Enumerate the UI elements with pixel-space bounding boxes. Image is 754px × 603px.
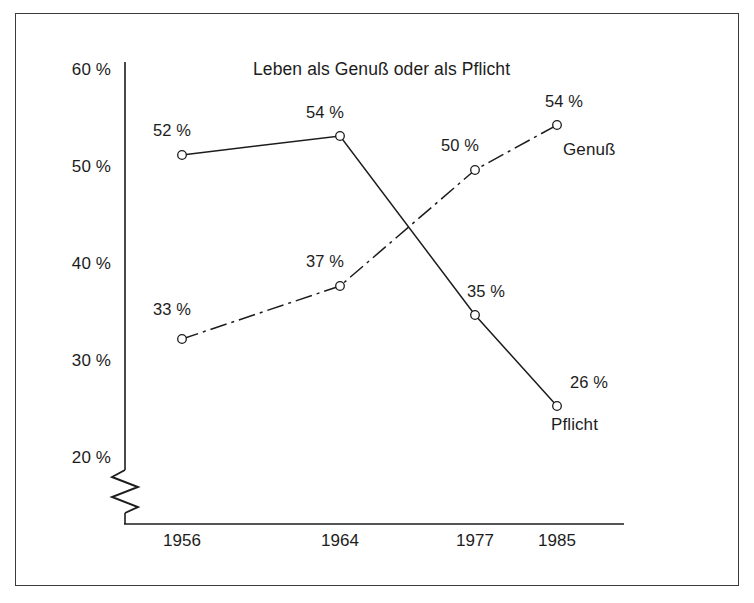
value-label-pflicht-1956: 52 % (153, 121, 191, 140)
x-tick-label-1977: 1977 (440, 531, 510, 551)
figure-border (15, 13, 739, 586)
series-label-pflicht: Pflicht (551, 415, 598, 435)
value-label-genuss-1977: 50 % (441, 136, 479, 155)
value-label-pflicht-1985: 26 % (570, 373, 608, 392)
value-label-genuss-1964: 37 % (306, 252, 344, 271)
series-label-genuss: Genuß (563, 140, 615, 160)
y-tick-label-50: 50 % (48, 157, 111, 177)
y-tick-label-40: 40 % (48, 254, 111, 274)
y-tick-label-20: 20 % (48, 448, 111, 468)
value-label-genuss-1956: 33 % (153, 300, 191, 319)
chart-title: Leben als Genuß oder als Pflicht (253, 59, 510, 80)
value-label-genuss-1985: 54 % (545, 92, 583, 111)
value-label-pflicht-1964: 54 % (306, 103, 344, 122)
x-tick-label-1985: 1985 (522, 531, 592, 551)
x-tick-label-1956: 1956 (147, 531, 217, 551)
y-tick-label-30: 30 % (48, 351, 111, 371)
value-label-pflicht-1977: 35 % (467, 282, 505, 301)
y-tick-label-60: 60 % (48, 60, 111, 80)
chart-page: Leben als Genuß oder als Pflicht 60 % 50… (0, 0, 754, 603)
x-tick-label-1964: 1964 (305, 531, 375, 551)
